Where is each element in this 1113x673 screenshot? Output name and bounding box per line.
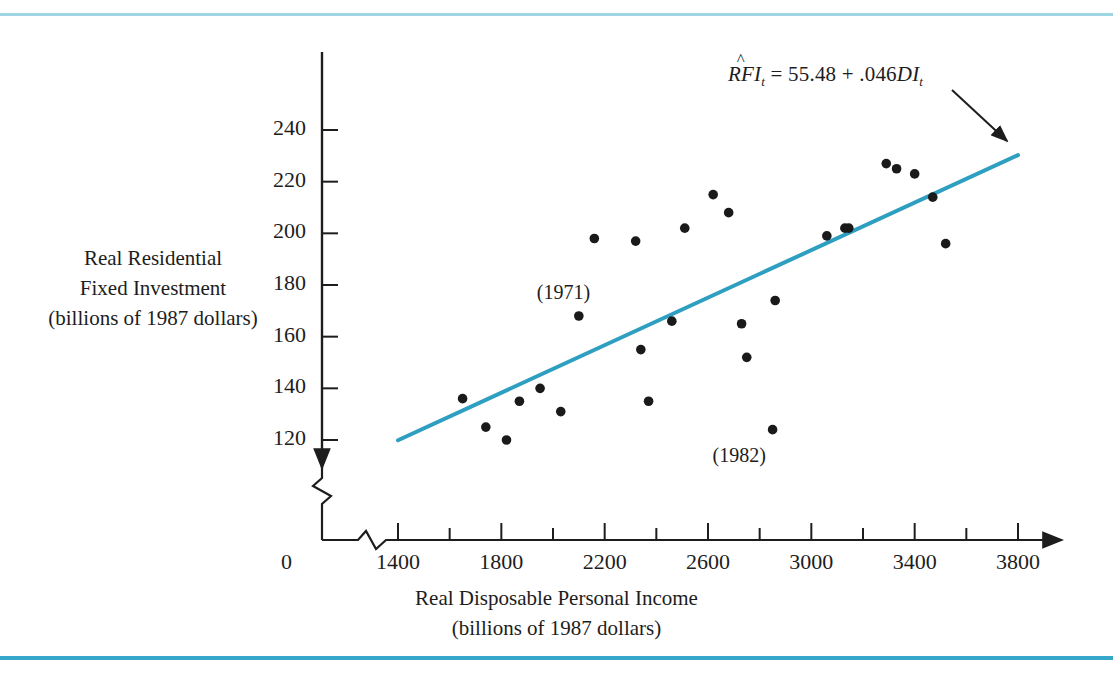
data-point	[822, 231, 832, 241]
y-axis	[313, 52, 338, 540]
regression-equation-label: RF^It = 55.48 + .046DIt	[728, 62, 923, 90]
y-tick-label: 180	[254, 270, 306, 296]
x-tick-label: 3400	[875, 549, 955, 575]
equation-variable-subscript: t	[919, 74, 923, 89]
y-axis-break-icon	[313, 468, 331, 540]
equation-variable: DI	[897, 62, 920, 86]
data-point	[881, 159, 891, 169]
origin-label: 0	[281, 549, 292, 575]
x-axis-title: Real Disposable Personal Income (billion…	[0, 583, 1113, 643]
data-point	[708, 190, 718, 200]
y-tick-label: 220	[254, 167, 306, 193]
y-tick-label: 120	[254, 425, 306, 451]
x-tick-label: 3800	[978, 549, 1058, 575]
label-1982: (1982)	[713, 444, 766, 467]
data-point	[644, 396, 654, 406]
x-tick-label: 1800	[461, 549, 541, 575]
data-point	[574, 311, 584, 321]
data-point	[844, 223, 854, 233]
data-point	[502, 435, 512, 445]
data-point	[515, 396, 525, 406]
y-axis-title-line-2: Fixed Investment	[22, 273, 284, 303]
data-point	[631, 236, 641, 246]
x-tick-marks	[398, 523, 1018, 540]
data-point	[590, 234, 600, 244]
y-axis-title-line-3: (billions of 1987 dollars)	[22, 303, 284, 333]
data-point	[458, 394, 468, 404]
data-point	[910, 169, 920, 179]
equation-lhs-hat-group: RF^	[728, 62, 754, 87]
y-tick-marks	[322, 130, 338, 440]
data-points-layer	[458, 159, 951, 445]
data-point	[737, 319, 747, 329]
x-axis-line-with-break	[322, 531, 1060, 549]
data-point	[928, 192, 938, 202]
figure-container: Real Residential Fixed Investment (billi…	[0, 0, 1113, 673]
x-tick-label: 2200	[565, 549, 645, 575]
data-point	[636, 345, 646, 355]
y-tick-label: 160	[254, 322, 306, 348]
x-tick-label: 2600	[668, 549, 748, 575]
equation-slope: .046	[859, 62, 897, 86]
hat-accent-icon: ^	[737, 50, 745, 70]
x-axis-title-line-1: Real Disposable Personal Income	[0, 583, 1113, 613]
data-point	[667, 316, 677, 326]
regression-line	[398, 155, 1018, 440]
y-tick-label: 140	[254, 373, 306, 399]
x-axis	[322, 523, 1062, 549]
data-point	[742, 353, 752, 363]
equation-plus: +	[836, 62, 859, 86]
y-tick-label: 240	[254, 115, 306, 141]
data-point	[892, 164, 902, 174]
y-axis-title-line-1: Real Residential	[22, 243, 284, 273]
x-tick-label: 3000	[771, 549, 851, 575]
data-point	[941, 239, 951, 249]
data-point	[481, 422, 491, 432]
y-tick-label: 200	[254, 218, 306, 244]
equation-equals: =	[765, 62, 788, 86]
y-axis-title: Real Residential Fixed Investment (billi…	[22, 243, 284, 333]
data-point	[680, 223, 690, 233]
data-point	[535, 384, 545, 394]
data-point	[556, 407, 566, 417]
data-point	[724, 208, 734, 218]
data-point	[770, 296, 780, 306]
equation-pointer-arrow	[952, 90, 1007, 141]
data-point	[768, 425, 778, 435]
equation-intercept: 55.48	[788, 62, 836, 86]
x-axis-title-line-2: (billions of 1987 dollars)	[0, 613, 1113, 643]
label-1971: (1971)	[537, 281, 590, 304]
x-tick-label: 1400	[358, 549, 438, 575]
